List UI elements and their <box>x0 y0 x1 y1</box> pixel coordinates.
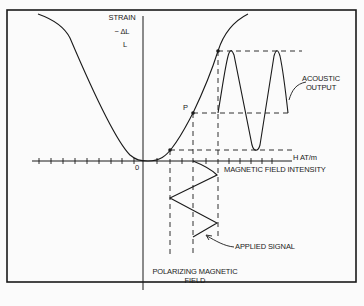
polarizing-field-label-line2: FIELD <box>150 277 240 285</box>
point-p-label: P <box>183 104 188 112</box>
operating-point-low <box>168 148 172 152</box>
applied-signal-label: APPLIED SIGNAL <box>235 243 295 251</box>
frame-border <box>7 10 356 282</box>
x-axis-unit-label: H AT/m <box>293 154 317 162</box>
acoustic-output-label-line1: ACOUSTIC <box>298 75 344 83</box>
acoustic-output-waveform <box>218 51 288 151</box>
polarizing-field-label-line1: POLARIZING MAGNETIC <box>150 268 240 276</box>
applied-signal-leader <box>207 236 234 247</box>
y-axis-label-delta-l: − ΔL <box>105 28 139 36</box>
operating-point-high <box>216 49 220 53</box>
dashed-guides <box>170 51 302 254</box>
x-axis-caption: MAGNETIC FIELD INTENSITY <box>224 166 326 174</box>
applied-signal-waveform <box>170 161 217 237</box>
operating-point-p <box>191 111 195 115</box>
acoustic-output-label-line2: OUTPUT <box>298 84 344 92</box>
y-axis-label-strain: STRAIN <box>105 14 139 22</box>
origin-label: 0 <box>135 164 139 172</box>
y-axis-label-l: L <box>108 41 142 49</box>
